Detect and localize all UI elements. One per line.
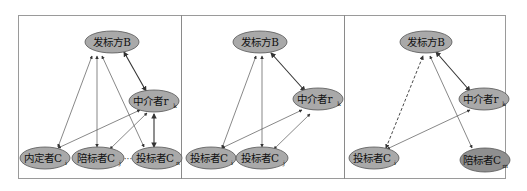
- edge-bidder-issuer-dashed: [386, 56, 423, 148]
- node-subscript: n: [176, 159, 180, 166]
- node-subscript: i: [65, 159, 67, 166]
- node-label: 投标者C: [136, 152, 174, 164]
- node-issuer: 发标方B: [233, 31, 287, 53]
- node-subscript: j: [118, 159, 121, 167]
- node-bidder2: 投标者C j: [236, 147, 288, 169]
- collusion-diagram: 发标方B 中介者r k 内定者C i 陪标者C j ··· 投标者C n: [0, 0, 527, 191]
- node-label: 投标者C: [353, 152, 391, 164]
- node-label: 中介者r: [463, 93, 499, 105]
- node-label: 陪标者C: [77, 152, 115, 164]
- node-bidder1: 投标者C i: [186, 147, 236, 169]
- node-label: 中介者r: [297, 93, 333, 105]
- edge-broker-issuer: [271, 53, 305, 91]
- edge-accompany-broker: [110, 113, 147, 149]
- edge-insider-broker: [58, 110, 140, 148]
- edge-bidder-broker: [387, 110, 470, 149]
- node-label: 发标方B: [93, 36, 131, 48]
- node-label: 投标者C: [241, 152, 279, 164]
- node-subscript: k: [502, 100, 506, 107]
- node-broker: 中介者r k: [293, 88, 343, 110]
- node-label: 发标方B: [407, 36, 445, 48]
- panel-3: 发标方B 中介者r k 投标者C i 陪标者C m: [349, 31, 510, 172]
- node-insider: 内定者C i: [20, 147, 70, 169]
- edge-insider-issuer: [58, 56, 92, 147]
- node-subscript: i: [231, 159, 233, 166]
- node-subscript: k: [173, 102, 177, 109]
- node-label: 投标者C: [190, 152, 228, 164]
- node-issuer: 发标方B: [400, 31, 452, 53]
- node-issuer: 发标方B: [85, 31, 139, 53]
- node-label: 内定者C: [24, 152, 62, 164]
- edge-bidder2-broker: [274, 114, 310, 149]
- node-accompany: 陪标者C m: [460, 148, 510, 172]
- node-label: 发标方B: [241, 36, 279, 48]
- node-subscript: i: [394, 159, 396, 166]
- panel-2: 发标方B 中介者r k 投标者C i 投标者C j: [186, 31, 343, 169]
- edge-broker-issuer: [436, 52, 470, 91]
- ellipsis: ···: [124, 154, 133, 164]
- node-subscript: j: [282, 159, 285, 167]
- node-label: 中介者r: [133, 95, 169, 107]
- edge-broker-issuer: [124, 52, 146, 91]
- node-broker: 中介者r k: [459, 88, 509, 110]
- node-broker: 中介者r k: [129, 90, 179, 112]
- node-accompany: 陪标者C j: [72, 147, 124, 169]
- node-bidder: 投标者C i: [349, 147, 399, 169]
- node-bidder: 投标者C n: [132, 147, 182, 169]
- node-subscript: m: [502, 162, 508, 169]
- node-label: 陪标者C: [463, 154, 501, 166]
- node-subscript: k: [337, 100, 341, 107]
- panel-1: 发标方B 中介者r k 内定者C i 陪标者C j ··· 投标者C n: [20, 31, 182, 169]
